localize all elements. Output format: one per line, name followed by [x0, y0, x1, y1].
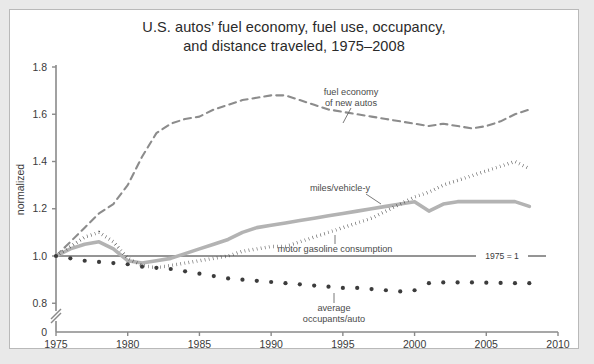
y-axis-title-group: normalized	[14, 164, 26, 216]
x-tick-label: 1980	[116, 338, 140, 350]
data-point	[341, 286, 345, 290]
fuel-economy-annotation-leader-line	[343, 108, 351, 123]
y-tick-label: 1.8	[32, 61, 47, 73]
data-point	[527, 281, 531, 285]
data-point	[484, 281, 488, 285]
data-point	[154, 266, 158, 270]
y-axis-title: normalized	[14, 164, 26, 216]
y-tick-label: 1.6	[32, 108, 47, 120]
fuel-economy-annotation: fuel economyof new autos	[324, 87, 379, 123]
data-point	[312, 283, 316, 287]
occupants-annotation-line-1: average	[317, 303, 350, 313]
data-point	[197, 272, 201, 276]
data-point	[441, 280, 445, 284]
y-tick-label: 0	[41, 326, 47, 338]
data-point	[355, 286, 359, 290]
data-point	[97, 260, 101, 264]
screenshot-root: U.S. autos’ fuel economy, fuel use, occu…	[0, 0, 594, 364]
data-point	[212, 274, 216, 278]
data-point	[169, 267, 173, 271]
reference-line-label: 1975 = 1	[485, 251, 519, 261]
data-point	[140, 265, 144, 269]
data-point	[240, 278, 244, 282]
fuel-economy-annotation-line-1: fuel economy	[324, 87, 379, 97]
occupants-annotation: averageoccupants/auto	[303, 293, 365, 324]
series-fuel-economy-of-new-autos	[56, 95, 529, 256]
data-point	[111, 261, 115, 265]
chart-svg: 1.81.61.41.21.00.80197519801985199019952…	[10, 10, 580, 350]
data-point	[412, 288, 416, 292]
data-point	[269, 280, 273, 284]
x-tick-label: 2000	[403, 338, 427, 350]
data-point	[369, 287, 373, 291]
data-point	[255, 279, 259, 283]
miles-per-vehicle-annotation-leader-line	[366, 194, 381, 204]
x-tick-label: 1995	[331, 338, 355, 350]
chart-panel: U.S. autos’ fuel economy, fuel use, occu…	[9, 9, 579, 349]
data-point	[126, 262, 130, 266]
data-point	[54, 254, 58, 258]
miles-per-vehicle-annotation: miles/vehicle-y	[310, 183, 381, 204]
data-point	[283, 281, 287, 285]
x-tick-label: 1985	[188, 338, 212, 350]
miles-per-vehicle-annotation-line-1: miles/vehicle-y	[310, 183, 371, 193]
data-point	[183, 269, 187, 273]
series-group	[54, 95, 532, 293]
x-tick-label: 2010	[546, 338, 570, 350]
x-tick-label: 1990	[259, 338, 283, 350]
data-point	[456, 280, 460, 284]
occupants-annotation-line-2: occupants/auto	[303, 314, 365, 324]
y-tick-label: 0.8	[32, 297, 47, 309]
y-tick-label: 1.0	[32, 250, 47, 262]
x-tick-label: 1975	[44, 338, 68, 350]
data-point	[427, 281, 431, 285]
plot-area: 1.81.61.41.21.00.80197519801985199019952…	[10, 10, 580, 350]
gasoline-annotation: motor gasoline consumption	[278, 235, 393, 254]
data-point	[470, 280, 474, 284]
y-tick-label: 1.4	[32, 155, 47, 167]
data-point	[68, 256, 72, 260]
y-tick-label: 1.2	[32, 202, 47, 214]
data-point	[513, 281, 517, 285]
gasoline-annotation-line-1: motor gasoline consumption	[278, 244, 393, 254]
data-point	[226, 276, 230, 280]
data-point	[83, 259, 87, 263]
annotations-group: fuel economyof new autosmiles/vehicle-ym…	[278, 87, 393, 324]
x-tick-label: 2005	[475, 338, 499, 350]
fuel-economy-annotation-line-2: of new autos	[325, 98, 378, 108]
data-point	[298, 282, 302, 286]
data-point	[499, 281, 503, 285]
data-point	[326, 285, 330, 289]
data-point	[398, 289, 402, 293]
data-point	[384, 288, 388, 292]
